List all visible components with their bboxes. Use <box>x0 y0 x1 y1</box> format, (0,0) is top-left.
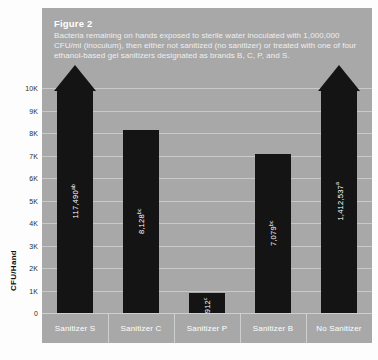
y-axis-tick-label: 6K <box>29 175 38 182</box>
bar-off-scale-arrow-icon <box>318 65 360 91</box>
y-axis-tick-label: 1K <box>29 287 38 294</box>
bar-sanitizer-s[interactable]: 117,490ab <box>57 90 93 313</box>
x-axis-category-band: Sanitizer SSanitizer CSanitizer PSanitiz… <box>42 313 372 343</box>
y-axis-tick-label: 4K <box>29 220 38 227</box>
x-axis-category-label: Sanitizer C <box>121 324 162 333</box>
bar-off-scale-arrow-icon <box>54 65 96 91</box>
bar-value-label: 1,412,537a <box>334 182 345 221</box>
y-axis-tick-label: 0 <box>34 310 38 317</box>
bar-value-label: 7,079bc <box>268 220 279 246</box>
x-axis-category-label: Sanitizer B <box>253 324 293 333</box>
y-axis: CFU/Hand 10K9K8K7K6K5K4K3K2K1K0 <box>0 88 42 313</box>
bar-sanitizer-b[interactable]: 7,079bc <box>255 154 291 313</box>
y-axis-tick-label: 3K <box>29 242 38 249</box>
y-axis-tick-label: 10K <box>25 85 38 92</box>
x-axis-category-sanitizer-p: Sanitizer P <box>174 314 240 343</box>
bar-series: 117,490ab8,128bc912c7,079bc1,412,537a <box>42 88 372 313</box>
x-axis-category-label: Sanitizer S <box>55 324 95 333</box>
x-axis-category-label: Sanitizer P <box>187 324 227 333</box>
bar-body: 912c <box>189 293 225 313</box>
category-separator <box>240 314 241 343</box>
y-axis-tick-label: 7K <box>29 152 38 159</box>
bar-no-sanitizer[interactable]: 1,412,537a <box>321 90 357 313</box>
x-axis-category-sanitizer-b: Sanitizer B <box>240 314 306 343</box>
bar-body: 8,128bc <box>123 130 159 313</box>
category-separator <box>108 314 109 343</box>
bar-value-label: 912c <box>202 298 213 314</box>
bar-body: 117,490ab <box>57 90 93 313</box>
bar-value-label: 8,128bc <box>136 209 147 235</box>
x-axis-category-sanitizer-s: Sanitizer S <box>42 314 108 343</box>
x-axis-category-label: No Sanitizer <box>316 324 361 333</box>
x-axis-category-sanitizer-c: Sanitizer C <box>108 314 174 343</box>
y-axis-title: CFU/Hand <box>9 236 18 306</box>
bar-body: 7,079bc <box>255 154 291 313</box>
x-axis-category-no-sanitizer: No Sanitizer <box>306 314 372 343</box>
bar-body: 1,412,537a <box>321 90 357 313</box>
bar-sanitizer-p[interactable]: 912c <box>189 293 225 313</box>
y-axis-tick-label: 2K <box>29 265 38 272</box>
category-separator <box>174 314 175 343</box>
bar-value-label: 117,490ab <box>70 184 81 218</box>
figure-container: Figure 2 Bacteria remaining on hands exp… <box>0 0 378 360</box>
bar-sanitizer-c[interactable]: 8,128bc <box>123 130 159 313</box>
plot-area: 117,490ab8,128bc912c7,079bc1,412,537a <box>42 88 372 313</box>
y-axis-tick-label: 5K <box>29 197 38 204</box>
y-axis-tick-label: 9K <box>29 107 38 114</box>
y-axis-tick-label: 8K <box>29 130 38 137</box>
figure-title: Figure 2 <box>54 18 360 29</box>
figure-description: Bacteria remaining on hands exposed to s… <box>54 31 360 62</box>
category-separator <box>306 314 307 343</box>
